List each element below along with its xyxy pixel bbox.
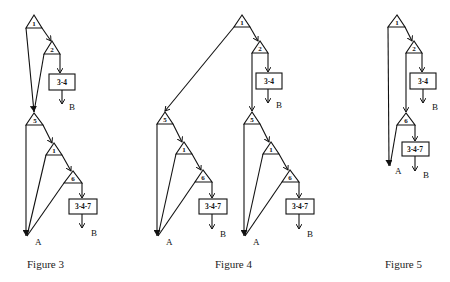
svg-text:1: 1 — [182, 146, 186, 154]
svg-text:3-4-7: 3-4-7 — [407, 145, 423, 154]
svg-text:A: A — [166, 237, 173, 247]
svg-text:6: 6 — [201, 174, 205, 182]
svg-text:B: B — [423, 170, 429, 180]
figure-5-caption: Figure 5 — [385, 258, 422, 270]
svg-text:1: 1 — [269, 146, 273, 154]
output-b: B — [69, 102, 75, 112]
output-a: A — [35, 237, 42, 247]
svg-text:5: 5 — [33, 117, 37, 125]
figure-4: 1 2 3-4 B 5 1 6 3-4-7 B A 5 1 — [157, 15, 314, 247]
svg-text:B: B — [220, 229, 226, 239]
svg-text:1: 1 — [395, 19, 399, 27]
svg-text:3-4-7: 3-4-7 — [292, 202, 308, 211]
svg-text:B: B — [276, 100, 282, 110]
svg-text:A: A — [253, 237, 260, 247]
node-1-label: 1 — [32, 20, 36, 28]
svg-text:3-4-7: 3-4-7 — [75, 202, 91, 211]
svg-text:6: 6 — [71, 175, 75, 183]
svg-text:5: 5 — [163, 116, 167, 124]
svg-text:2: 2 — [258, 45, 262, 53]
figure-5: 1 2 3-4 B 6 3-4-7 B A — [388, 15, 438, 180]
figure-3: 1 2 3-4 B 5 1 6 3-4-7 B A — [26, 15, 97, 247]
figure-3-caption: Figure 3 — [27, 258, 64, 270]
svg-text:A: A — [395, 166, 402, 176]
svg-text:6: 6 — [288, 174, 292, 182]
svg-text:B: B — [432, 102, 438, 112]
svg-text:B: B — [307, 229, 313, 239]
svg-text:3-4: 3-4 — [57, 78, 67, 87]
svg-text:3-4: 3-4 — [418, 77, 428, 86]
svg-text:2: 2 — [412, 45, 416, 53]
svg-text:3-4-7: 3-4-7 — [205, 202, 221, 211]
node-2-label: 2 — [50, 46, 54, 54]
svg-text:1: 1 — [240, 19, 244, 27]
svg-text:B: B — [91, 228, 97, 238]
svg-text:5: 5 — [250, 116, 254, 124]
svg-text:6: 6 — [404, 117, 408, 125]
svg-text:1: 1 — [52, 147, 56, 155]
svg-text:3-4: 3-4 — [264, 77, 274, 86]
figure-4-caption: Figure 4 — [215, 258, 252, 270]
